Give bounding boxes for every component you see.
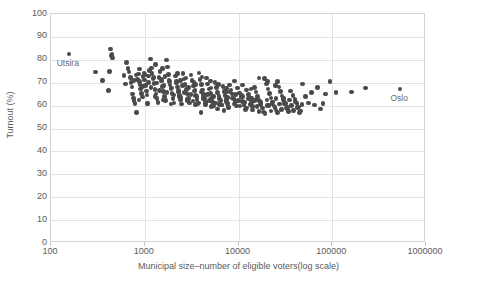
y-axis-tick-label: 0 xyxy=(7,238,47,247)
data-point xyxy=(164,58,169,63)
gridline-vertical xyxy=(239,14,240,241)
point-annotation-oslo: Oslo xyxy=(390,94,407,103)
plot-area xyxy=(50,13,425,242)
data-point xyxy=(127,70,132,75)
scatter-chart-figure: Turnout (%) Municipal size–number of eli… xyxy=(0,0,477,285)
data-point xyxy=(263,111,268,116)
data-point xyxy=(108,47,113,52)
data-point xyxy=(279,107,284,112)
data-point xyxy=(157,88,162,93)
data-point xyxy=(257,109,262,114)
data-point xyxy=(255,104,260,109)
y-axis-title: Turnout (%) xyxy=(5,55,15,175)
data-point xyxy=(349,90,354,95)
data-point xyxy=(184,76,189,81)
data-point xyxy=(208,79,213,84)
data-point xyxy=(137,67,142,72)
data-point xyxy=(216,82,221,87)
data-point xyxy=(165,90,170,95)
data-point xyxy=(137,98,142,103)
data-point xyxy=(249,96,254,101)
data-point xyxy=(100,78,105,83)
x-axis-tick-label: 1000000 xyxy=(407,247,442,256)
data-point xyxy=(303,94,308,99)
data-point xyxy=(195,94,200,99)
data-point xyxy=(106,88,111,93)
data-point xyxy=(189,73,194,78)
data-point xyxy=(93,70,98,75)
data-point xyxy=(225,95,230,100)
data-point xyxy=(189,92,194,97)
data-point xyxy=(250,108,255,113)
data-point xyxy=(265,103,270,108)
data-point xyxy=(209,86,214,91)
data-point xyxy=(334,90,339,95)
data-point xyxy=(107,69,112,74)
data-point xyxy=(140,84,145,89)
data-point xyxy=(122,73,127,78)
data-point xyxy=(209,104,214,109)
data-point xyxy=(300,102,305,107)
data-point xyxy=(193,82,198,87)
data-point xyxy=(312,103,317,108)
x-axis-tick-label: 100 xyxy=(42,247,57,256)
data-point xyxy=(209,98,214,103)
data-point xyxy=(145,93,150,98)
data-point xyxy=(156,100,161,105)
gridline-vertical xyxy=(145,14,146,241)
y-axis-tick-label: 40 xyxy=(7,146,47,155)
data-point xyxy=(199,82,204,87)
y-axis-tick-label: 80 xyxy=(7,54,47,63)
data-point xyxy=(163,74,168,79)
data-point xyxy=(257,76,262,81)
data-point xyxy=(130,85,135,90)
data-point xyxy=(398,87,403,92)
data-point xyxy=(181,71,186,76)
data-point xyxy=(67,52,72,57)
gridline-horizontal xyxy=(51,83,424,84)
point-annotation-utsira: Utsira xyxy=(57,59,79,68)
data-point xyxy=(180,83,185,88)
data-point xyxy=(186,85,191,90)
x-axis-title: Municipal size–number of eligible voters… xyxy=(0,261,477,271)
gridline-horizontal xyxy=(51,129,424,130)
data-point xyxy=(323,92,328,97)
gridline-horizontal xyxy=(51,37,424,38)
data-point xyxy=(215,107,220,112)
data-point xyxy=(300,82,305,87)
data-point xyxy=(234,92,239,97)
data-point xyxy=(154,81,159,86)
data-point xyxy=(199,110,204,115)
data-point xyxy=(318,107,323,112)
x-axis-tick-label: 1000 xyxy=(134,247,154,256)
data-point xyxy=(169,86,174,91)
data-point xyxy=(277,102,282,107)
y-axis-tick-label: 30 xyxy=(7,169,47,178)
data-point xyxy=(193,102,198,107)
data-point xyxy=(178,78,183,83)
data-point xyxy=(134,110,139,115)
data-point xyxy=(131,78,136,83)
data-point xyxy=(233,99,238,104)
y-axis-tick-label: 70 xyxy=(7,77,47,86)
data-point xyxy=(258,99,263,104)
data-point xyxy=(222,108,227,113)
data-point xyxy=(160,66,165,71)
data-point xyxy=(137,79,142,84)
data-point xyxy=(185,98,190,103)
data-point xyxy=(205,92,210,97)
gridline-horizontal xyxy=(51,197,424,198)
data-point xyxy=(315,85,320,90)
data-point xyxy=(175,71,180,76)
data-point xyxy=(274,96,279,101)
data-point xyxy=(309,90,314,95)
data-point xyxy=(265,98,270,103)
data-point xyxy=(153,94,158,99)
gridline-horizontal xyxy=(51,151,424,152)
data-point xyxy=(306,101,311,106)
data-point xyxy=(152,75,157,80)
data-point xyxy=(172,93,177,98)
data-point xyxy=(285,105,290,110)
data-point xyxy=(143,72,148,77)
data-point xyxy=(249,87,254,92)
